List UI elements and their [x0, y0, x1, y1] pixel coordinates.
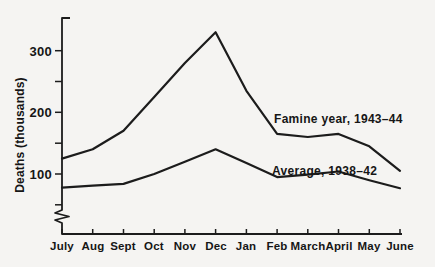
- y-axis-title: Deaths (thousands): [13, 65, 29, 205]
- y-tick-label-200: 200: [18, 105, 52, 120]
- series-label-famine-year: Famine year, 1943–44: [274, 112, 403, 126]
- series-label-average: Average, 1938–42: [272, 164, 377, 178]
- y-tick-label-300: 300: [18, 44, 52, 59]
- x-tick-label-june: June: [380, 240, 420, 252]
- chart-canvas: [0, 0, 435, 267]
- chart-figure: Deaths (thousands) 300200100 JulyAugSept…: [0, 0, 435, 267]
- axes-with-break: [55, 18, 402, 234]
- line-famine-year: [62, 32, 400, 171]
- y-tick-label-100: 100: [18, 167, 52, 182]
